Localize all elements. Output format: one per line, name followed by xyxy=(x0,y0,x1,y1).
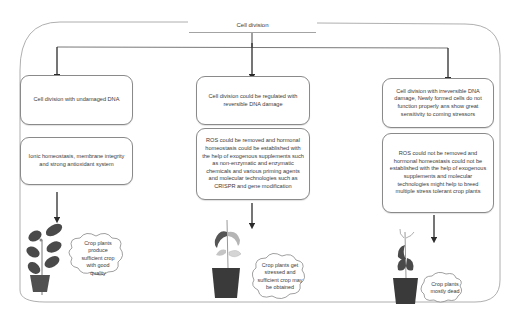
condition-text: Cell division with irreversible DNA dama… xyxy=(388,88,488,118)
mechanism-text: Ionic homeostasis, membrane integrity an… xyxy=(26,153,127,168)
condition-box-reversible: Cell division could be regulated with re… xyxy=(196,76,310,125)
condition-box-undamaged: Cell division with undamaged DNA xyxy=(20,75,133,125)
diagram-title: Cell division xyxy=(189,22,316,28)
dead-plant-icon xyxy=(393,229,418,304)
outcome-text-reversible: Crop plants get stressed and sufficient … xyxy=(256,262,304,292)
mechanism-text: ROS could be removed and hormonal homeos… xyxy=(202,137,304,190)
healthy-plant-icon xyxy=(24,221,64,295)
mechanism-box-undamaged: Ionic homeostasis, membrane integrity an… xyxy=(20,137,133,185)
condition-text: Cell division with undamaged DNA xyxy=(34,96,120,104)
outcome-text-irreversible: Crop plants mostly dead xyxy=(428,281,462,296)
condition-box-irreversible: Cell division with irreversible DNA dama… xyxy=(382,78,494,128)
mechanism-box-irreversible: ROS could not be removed and hormonal ho… xyxy=(382,133,494,213)
mechanism-text: ROS could not be removed and hormonal ho… xyxy=(388,150,488,196)
mechanism-box-reversible: ROS could be removed and hormonal homeos… xyxy=(196,128,310,200)
outcome-text-undamaged: Crop plants produce sufficient crop with… xyxy=(78,240,118,277)
stressed-plant-icon xyxy=(212,220,241,298)
condition-text: Cell division could be regulated with re… xyxy=(202,93,304,108)
